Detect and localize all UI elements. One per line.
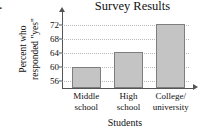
- x-axis-line: [62, 88, 194, 89]
- y-axis-label-text: Percent who responded "yes": [18, 18, 41, 80]
- x-axis-label: Students: [55, 117, 195, 129]
- category-label-line: university: [147, 102, 195, 113]
- y-tick-mark: [59, 67, 63, 68]
- y-tick-mark: [59, 25, 63, 26]
- y-tick-label: 64: [50, 49, 59, 58]
- y-tick-mark: [59, 39, 63, 40]
- bar: [114, 52, 143, 88]
- bar: [72, 67, 101, 88]
- category-label-line: school: [62, 102, 110, 113]
- x-axis-arrow-icon: [193, 84, 198, 90]
- category-label: Middleschool: [62, 91, 110, 112]
- bar: [156, 24, 185, 88]
- category-label-line: school: [105, 102, 153, 113]
- category-label: Highschool: [105, 91, 153, 112]
- survey-results-figure: 9. Survey Results Percent who responded …: [0, 0, 205, 135]
- y-axis-line: [62, 10, 63, 88]
- y-tick-label: 68: [50, 35, 59, 44]
- problem-number: 9.: [0, 0, 2, 12]
- y-axis-arrow-icon: [59, 7, 65, 12]
- chart-title: Survey Results: [60, 0, 205, 14]
- y-tick-label: 72: [50, 21, 59, 30]
- category-label-line: Middle: [62, 91, 110, 102]
- y-axis-label-line-2: responded "yes": [29, 18, 41, 80]
- y-tick-mark: [59, 81, 63, 82]
- y-tick-label: 60: [50, 63, 59, 72]
- plot-area: 7268646056 MiddleschoolHighschoolCollege…: [62, 18, 189, 88]
- category-label: College/university: [147, 91, 195, 112]
- category-label-line: College/: [147, 91, 195, 102]
- category-label-line: High: [105, 91, 153, 102]
- y-axis-label: Percent who responded "yes": [12, 6, 46, 92]
- y-tick-mark: [59, 53, 63, 54]
- y-axis-label-line-1: Percent who: [18, 18, 30, 80]
- y-tick-label: 56: [50, 77, 59, 86]
